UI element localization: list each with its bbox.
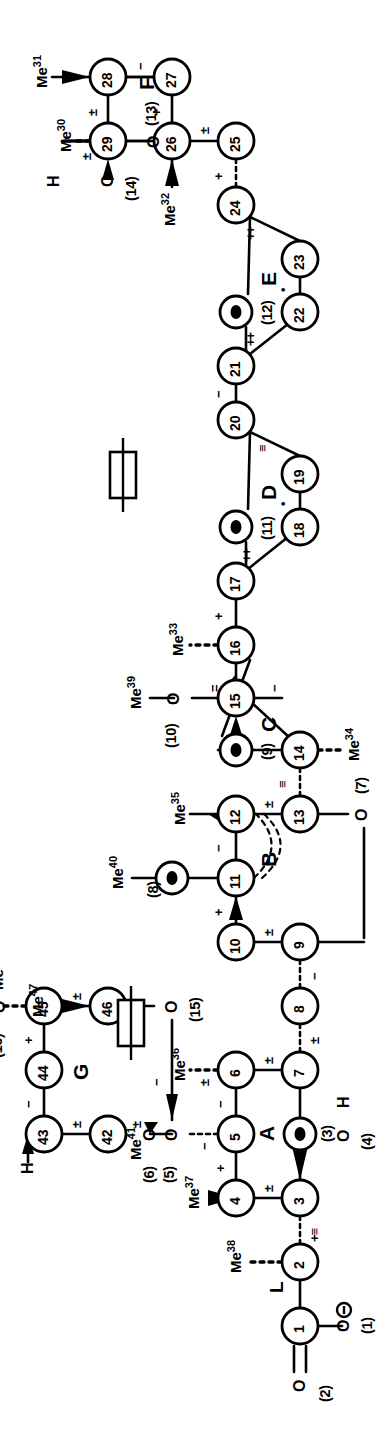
oxygen-O2-number: (2) xyxy=(318,1385,333,1402)
charge-layer xyxy=(337,1303,351,1317)
wedge-11-O8w xyxy=(229,896,243,920)
bondmark-3-4: ± xyxy=(262,1186,275,1192)
bondmark-27-28: − xyxy=(134,63,147,70)
atom-label-19: 19 xyxy=(292,469,306,485)
oxygen-O14-number: (14) xyxy=(124,176,139,201)
atom-label-21: 21 xyxy=(228,361,242,377)
oxygen-O15-number: (15) xyxy=(188,997,203,1022)
oxygen-O6-number: (6) xyxy=(142,1166,157,1183)
methyl-label-Me36: Me36 xyxy=(170,1048,187,1081)
atom-label-43: 43 xyxy=(36,1129,50,1145)
bondmark-25-26: ± xyxy=(198,128,211,134)
bondmark-2-3: +≡ xyxy=(308,1229,321,1242)
bondmark-29-O14: ± xyxy=(80,154,93,160)
atom-label-7: 7 xyxy=(292,1069,306,1077)
atom-label-4: 4 xyxy=(228,1197,242,1205)
oxygen-O15-symbol: O xyxy=(164,1001,180,1013)
atom-label-42: 42 xyxy=(100,1129,114,1145)
bondmark-26-27: + xyxy=(150,109,163,116)
methyl-label-Me41: Me41 xyxy=(126,1127,143,1160)
bondmark-14-15: − xyxy=(268,685,281,692)
bondmark-15-16: = xyxy=(208,685,221,692)
atom-label-10: 10 xyxy=(228,938,242,954)
atom-label-17: 17 xyxy=(228,576,242,592)
bondmark-42-43: ± xyxy=(70,1122,83,1128)
wedge-layer xyxy=(22,70,309,1206)
oxygen-O10-symbol: O xyxy=(166,693,182,705)
methyl-label-Me33: Me33 xyxy=(168,623,185,656)
atom-label-2: 2 xyxy=(292,1261,306,1269)
atom-label-15: 15 xyxy=(228,693,242,709)
bondmark-4-5: + xyxy=(214,1165,227,1172)
bondmark-8-9: − xyxy=(308,973,321,980)
atom-label-5: 5 xyxy=(228,1133,242,1141)
oxygen-O13-symbol: O xyxy=(146,136,162,148)
ring-label-G: G xyxy=(70,1064,91,1080)
bonds-layer: L xyxy=(0,0,392,1438)
marker-layer xyxy=(110,438,144,1060)
atom-label-22: 22 xyxy=(292,307,306,323)
bondmark-24-25: + xyxy=(212,173,225,180)
atom-label-3: 3 xyxy=(292,1197,306,1205)
atom-label-27: 27 xyxy=(164,72,178,88)
oxygen-O10-number: (10) xyxy=(164,723,179,748)
atom-label-1: 1 xyxy=(292,1325,306,1333)
methyl-label-Me38: Me38 xyxy=(226,1240,243,1273)
oxygen-O5-symbol: O xyxy=(164,1129,180,1141)
structure-canvas: L 1 2 3 4 5 6 7 8 9 10 11 12 13 14 15 16… xyxy=(0,0,392,1438)
atom-label-11: 11 xyxy=(228,874,242,889)
oxygen-O4-symbol: O xyxy=(336,1130,352,1142)
atom-label-18: 18 xyxy=(292,522,306,538)
oxygen-O14-symbol: O xyxy=(100,175,116,187)
hydrogen-label-O14H: H xyxy=(46,175,62,187)
ring-label-A: A xyxy=(256,1126,277,1141)
bondmark-13-14: ≡ xyxy=(276,781,289,788)
ring-oxygen-O8-number: (8) xyxy=(146,881,161,898)
linker-label-L: L xyxy=(266,1281,287,1293)
atom-label-26: 26 xyxy=(164,136,178,152)
atom-label-14: 14 xyxy=(292,745,306,761)
wedge-26-Me32w xyxy=(165,159,179,186)
wedge-46-Me47w xyxy=(62,999,90,1013)
atom-label-9: 9 xyxy=(292,941,306,949)
atom-label-44: 44 xyxy=(36,1065,50,1081)
bondmark-23-24: ++ xyxy=(244,227,257,240)
oxygen-O4-number: (4) xyxy=(360,1133,375,1150)
methyl-label-Me47: Me47 xyxy=(28,984,45,1017)
diagram-page: L 1 2 3 4 5 6 7 8 9 10 11 12 13 14 15 16… xyxy=(0,0,392,1438)
oxygen-O1-number: (1) xyxy=(360,1317,375,1334)
bondmark-12-13: ± xyxy=(262,802,275,808)
methyl-label-Me32: Me32 xyxy=(160,193,177,226)
ring-oxygen-O12-number: (12) xyxy=(260,300,275,325)
ring-oxygen-O11-number: (11) xyxy=(260,516,275,540)
atom-label-25: 25 xyxy=(228,136,242,152)
bondmark-17-18: ++ xyxy=(240,549,253,562)
ring-label-F: F xyxy=(136,77,157,90)
hydrogen-label-43H: H xyxy=(20,1162,36,1174)
bondmark-5-O5: − xyxy=(198,1143,211,1150)
bondmark-42-O6: ± xyxy=(130,1122,143,1128)
atom-label-8: 8 xyxy=(292,1005,306,1013)
atom-label-20: 20 xyxy=(228,415,242,431)
bondmark-43-44: − xyxy=(22,1101,35,1108)
bondmark-10-11: + xyxy=(212,909,225,916)
bondmark-6-O6: − xyxy=(150,1079,163,1086)
atom-label-28: 28 xyxy=(100,72,114,88)
oxygen-O1-symbol: O xyxy=(336,1320,352,1332)
methyl-label-Me31: Me31 xyxy=(32,55,49,88)
ring-oxygen-O3-number: (3) xyxy=(320,1125,335,1142)
atom-label-24: 24 xyxy=(228,200,242,216)
methyl-label-Me37: Me37 xyxy=(184,1176,201,1209)
atom-label-6: 6 xyxy=(228,1069,242,1077)
rotated-canvas: L 1 2 3 4 5 6 7 8 9 10 11 12 13 14 15 16… xyxy=(0,0,392,1438)
methyl-label-Me40: Me40 xyxy=(108,856,125,889)
oxygen-O6-symbol: O xyxy=(142,1129,158,1141)
bondmark-16-17: + xyxy=(212,613,225,620)
bondmark-18-19: • xyxy=(276,502,289,506)
wedge-O6-42w xyxy=(166,1094,178,1120)
oxygen-O7-symbol: O xyxy=(354,809,370,821)
bondmark-6-7: ± xyxy=(262,1058,275,1064)
bondmark-21-22: ++ xyxy=(244,333,257,346)
bond-20-O11 xyxy=(248,432,250,509)
oxygen-O2-symbol: O xyxy=(292,1380,308,1392)
